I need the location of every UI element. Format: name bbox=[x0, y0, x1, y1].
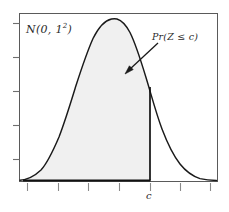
x-axis-ticks bbox=[28, 183, 211, 191]
distribution-label-close: ) bbox=[67, 23, 72, 36]
distribution-label: N(0, 12) bbox=[26, 22, 72, 36]
threshold-tick-label: c bbox=[146, 190, 152, 201]
probability-annotation-label: Pr(Z ≤ c) bbox=[152, 31, 198, 42]
y-axis-ticks bbox=[13, 24, 20, 160]
shaded-area-under-curve bbox=[21, 19, 150, 180]
normal-distribution-figure: N(0, 12) Pr(Z ≤ c) c bbox=[0, 0, 229, 212]
distribution-label-main: N(0, 1 bbox=[26, 23, 63, 36]
